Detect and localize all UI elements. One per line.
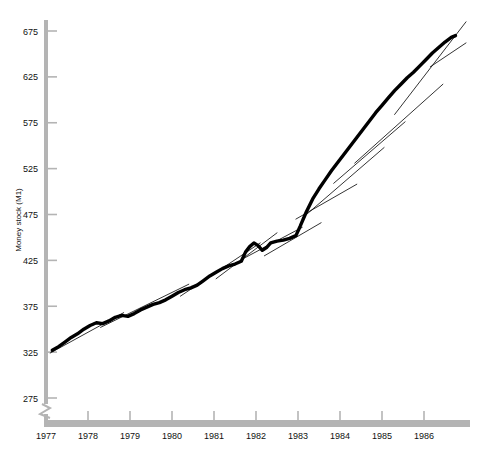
x-tick-label: 1979 [120, 431, 140, 441]
y-axis-title: Money stock (M1) [14, 188, 23, 252]
x-axis-bar [44, 420, 470, 427]
y-tick-label: 575 [23, 118, 38, 128]
y-tick-label: 625 [23, 72, 38, 82]
y-tick-label: 525 [23, 164, 38, 174]
y-tick-label: 325 [23, 348, 38, 358]
y-tick-label: 375 [23, 302, 38, 312]
y-tick-label: 425 [23, 256, 38, 266]
money-stock-line-chart: 275325375425475525575625675 197719781979… [0, 0, 488, 459]
y-tick-label: 675 [23, 27, 38, 37]
x-tick-label: 1985 [372, 431, 392, 441]
chart-figure: 275325375425475525575625675 197719781979… [0, 0, 488, 459]
x-tick-label: 1978 [78, 431, 98, 441]
x-tick-label: 1980 [162, 431, 182, 441]
x-tick-label: 1977 [36, 431, 56, 441]
x-tick-label: 1981 [204, 431, 224, 441]
y-axis-title-group: Money stock (M1) [14, 188, 23, 252]
y-axis-bar [44, 20, 48, 404]
y-tick-label: 275 [23, 394, 38, 404]
x-tick-label: 1983 [288, 431, 308, 441]
x-tick-label: 1982 [246, 431, 266, 441]
x-tick-label: 1984 [330, 431, 350, 441]
x-tick-label: 1986 [414, 431, 434, 441]
y-tick-label: 475 [23, 210, 38, 220]
